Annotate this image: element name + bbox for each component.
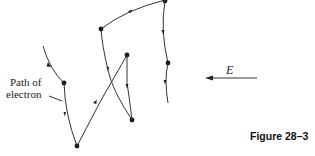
path-segment-2 (64, 83, 77, 146)
path-segment-4 (127, 55, 132, 120)
path-segment-1 (43, 46, 64, 83)
label-leader-line (49, 96, 62, 101)
direction-arrow-icon (162, 30, 165, 35)
field-label: E (225, 63, 234, 77)
direction-arrow-icon (93, 100, 97, 105)
path-segment-8 (166, 63, 168, 103)
path-label-line1: Path of (10, 76, 42, 88)
path-label-line2: electron (6, 88, 42, 100)
field-arrow-left-icon (205, 76, 213, 81)
figure-caption: Figure 28–3 (250, 130, 308, 142)
path-segment-6 (101, 0, 165, 29)
direction-arrow-icon (64, 112, 67, 117)
path-segment-3 (77, 55, 127, 146)
direction-arrow-icon (107, 67, 110, 71)
